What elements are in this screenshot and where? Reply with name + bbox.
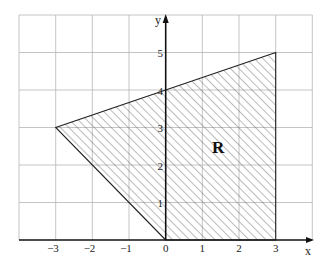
svg-text:0: 0 bbox=[163, 242, 169, 254]
svg-text:3: 3 bbox=[273, 242, 279, 254]
svg-text:2: 2 bbox=[158, 160, 164, 172]
x-axis-arrow-icon bbox=[306, 237, 314, 243]
svg-text:4: 4 bbox=[158, 85, 164, 97]
x-axis-label: x bbox=[305, 244, 311, 258]
region-label: R bbox=[212, 138, 225, 157]
svg-text:2: 2 bbox=[236, 242, 242, 254]
svg-text:5: 5 bbox=[158, 47, 164, 59]
svg-text:−1: −1 bbox=[120, 242, 132, 254]
y-axis-label: y bbox=[155, 13, 161, 27]
svg-text:1: 1 bbox=[158, 197, 164, 209]
x-tick-labels: −3 −2 −1 0 1 2 3 bbox=[47, 242, 279, 254]
svg-text:3: 3 bbox=[158, 122, 164, 134]
svg-text:1: 1 bbox=[200, 242, 206, 254]
svg-text:−2: −2 bbox=[84, 242, 96, 254]
coordinate-plane: x y −3 −2 −1 0 1 2 3 1 2 3 4 5 R bbox=[0, 0, 327, 265]
svg-text:−3: −3 bbox=[47, 242, 59, 254]
